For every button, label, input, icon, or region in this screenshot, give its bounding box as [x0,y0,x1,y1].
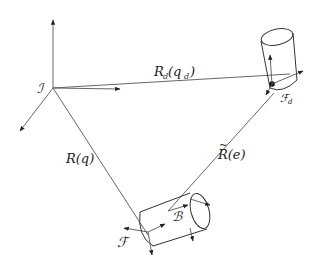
svg-text:d: d [288,98,293,106]
svg-text:(q: (q [168,64,181,79]
error-pose-label: R(e) ~ [217,139,246,162]
frame-f-label: ℱ [117,234,131,250]
pose-diagram: ℐ R d (q d ) R(q) R(e) ~ ℬ ℱ ℱ d [0,0,317,272]
actual-pose-label: R(q) [65,151,94,166]
body-frame-label: ℬ [172,209,183,224]
desired-body-cylinder [260,26,303,95]
svg-text:d: d [184,72,189,81]
body-cylinder [124,191,213,255]
desired-pose-label: R d (q d ) [153,64,195,81]
svg-text:~: ~ [219,139,227,150]
inertial-x-axis [53,88,120,89]
frame-fd-label: ℱ d [280,92,293,106]
inertial-frame-label: ℐ [37,81,45,96]
svg-text:): ) [189,64,195,79]
